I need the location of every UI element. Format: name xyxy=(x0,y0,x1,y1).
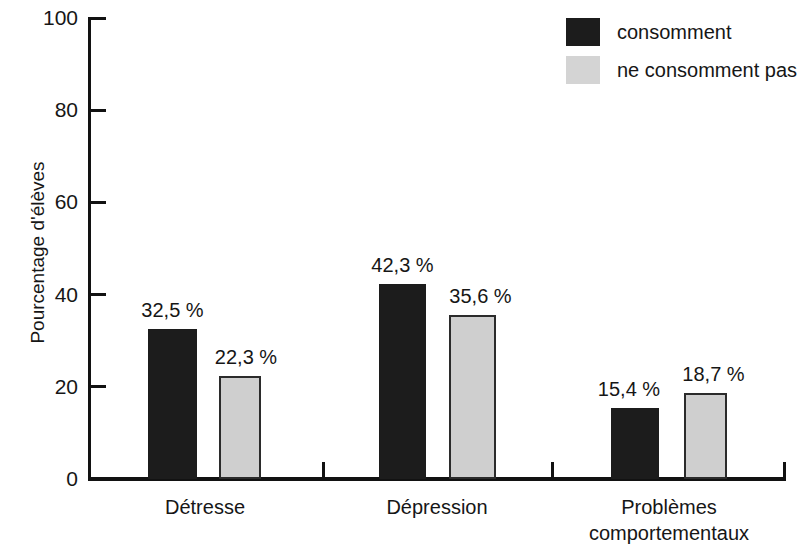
x-axis-category-label-line: Problèmes xyxy=(549,494,789,520)
y-axis-tick-label-wrap: 40 xyxy=(0,284,78,305)
y-axis-tick-label-wrap: 80 xyxy=(0,99,78,120)
y-axis-tick xyxy=(91,201,106,204)
y-axis-tick xyxy=(91,385,106,388)
y-axis-tick xyxy=(91,109,106,112)
y-axis-tick-label: 40 xyxy=(0,284,78,305)
bar-value-label: 22,3 % xyxy=(196,347,296,367)
x-axis-category-label: Problèmescomportementaux xyxy=(549,494,789,546)
bar xyxy=(379,284,426,479)
legend-label: ne consomment pas xyxy=(617,60,797,80)
bar-value-label: 32,5 % xyxy=(123,300,223,320)
y-axis-tick-label-wrap: 0 xyxy=(0,468,78,489)
y-axis-tick-label: 80 xyxy=(0,99,78,120)
y-axis-tick xyxy=(91,17,106,20)
y-axis-tick-label: 100 xyxy=(0,7,78,28)
x-axis-category-label: Détresse xyxy=(85,494,325,520)
x-axis-tick-1 xyxy=(322,462,325,477)
y-axis-tick-label-wrap: 100 xyxy=(0,7,78,28)
y-axis-tick-label: 20 xyxy=(0,376,78,397)
bar-chart: Pourcentage d'élèves 020406080100 32,5 %… xyxy=(0,0,802,553)
x-axis-tick-3 xyxy=(783,462,786,477)
x-axis-category-label: Dépression xyxy=(317,494,557,520)
y-axis-tick-label: 60 xyxy=(0,191,78,212)
y-axis-tick xyxy=(91,293,106,296)
x-axis-category-label-line: comportementaux xyxy=(549,520,789,546)
bar xyxy=(219,376,261,479)
bar xyxy=(611,408,659,479)
y-axis-tick-label: 0 xyxy=(0,468,78,489)
legend-item-consomment: consomment xyxy=(566,13,797,51)
black-square-swatch-icon xyxy=(566,18,600,46)
bar-value-label: 42,3 % xyxy=(353,255,453,275)
x-axis-tick-2 xyxy=(551,462,554,477)
bar xyxy=(148,329,197,479)
y-axis-tick-label-wrap: 20 xyxy=(0,376,78,397)
y-axis-line xyxy=(88,17,91,481)
gray-square-swatch-icon xyxy=(566,56,600,84)
x-axis-category-label-line: Détresse xyxy=(85,494,325,520)
y-axis-tick-label-wrap: 60 xyxy=(0,191,78,212)
legend-item-ne-consomment-pas: ne consomment pas xyxy=(566,51,797,89)
bar-value-label: 18,7 % xyxy=(664,364,764,384)
legend: consomment ne consomment pas xyxy=(566,13,797,89)
bar xyxy=(449,315,496,479)
legend-label: consomment xyxy=(617,22,732,42)
bar-value-label: 35,6 % xyxy=(431,286,531,306)
x-axis-category-label-line: Dépression xyxy=(317,494,557,520)
bar xyxy=(684,393,727,479)
y-axis-title: Pourcentage d'élèves xyxy=(28,123,47,383)
